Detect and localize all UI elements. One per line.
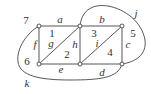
face-label-1: 1 xyxy=(49,27,55,39)
graph-node xyxy=(37,24,41,28)
graph-node xyxy=(78,24,82,28)
edge-label-c: c xyxy=(126,38,131,50)
edge-label-k: k xyxy=(25,77,31,89)
face-label-4: 4 xyxy=(107,46,113,58)
face-label-3: 3 xyxy=(91,27,97,39)
face-label-6: 6 xyxy=(24,55,30,67)
graph-node xyxy=(120,24,124,28)
edge-label-h: h xyxy=(72,38,78,50)
edge-label-b: b xyxy=(99,13,105,25)
edge-label-f: f xyxy=(33,38,38,50)
graph-node xyxy=(78,62,82,66)
edge-label-e: e xyxy=(59,63,64,75)
edge-label-j: j xyxy=(132,7,137,19)
edge-i xyxy=(80,26,122,64)
graph-node xyxy=(120,62,124,66)
graph-node xyxy=(37,62,41,66)
face-label-2: 2 xyxy=(64,48,70,60)
graph-diagram: a b c d e f g h i j k 1 2 3 4 5 6 7 xyxy=(0,0,151,94)
face-label-7: 7 xyxy=(23,14,29,26)
edge-label-a: a xyxy=(57,13,63,25)
edge-label-d: d xyxy=(99,66,105,78)
face-label-5: 5 xyxy=(130,27,136,39)
